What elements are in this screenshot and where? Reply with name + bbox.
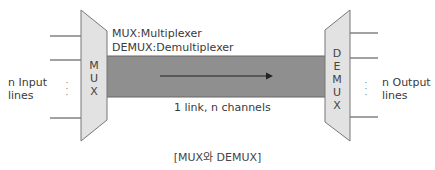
figure-caption: [MUX와 DEMUX] [0, 148, 435, 164]
mux-definition: MUX:Multiplexer [112, 27, 202, 40]
input-lines-label: n Input lines [8, 76, 47, 102]
output-lines-label: n Output lines [382, 76, 431, 102]
mux-label: M U X [88, 59, 100, 98]
input-ellipsis-icon: ··· [64, 80, 70, 98]
output-ellipsis-icon: ··· [363, 80, 369, 98]
link-label: 1 link, n channels [174, 101, 271, 114]
demux-label: D E M U X [331, 47, 343, 112]
demux-definition: DEMUX:Demultiplexer [112, 41, 234, 54]
